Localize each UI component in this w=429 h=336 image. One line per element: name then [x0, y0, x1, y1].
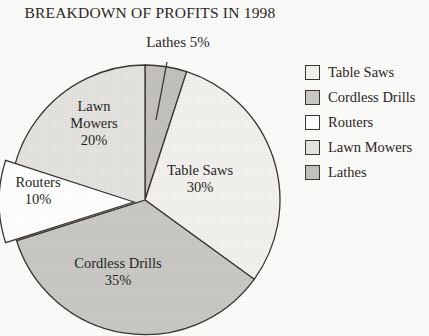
slice-label-table-saws-pct: 30% — [150, 179, 250, 196]
legend-label-lawn-mowers: Lawn Mowers — [328, 139, 412, 156]
legend-label-lathes: Lathes — [328, 164, 367, 181]
legend-label-cordless-drills: Cordless Drills — [328, 89, 415, 106]
legend: Table Saws Cordless Drills Routers Lawn … — [305, 60, 429, 185]
legend-swatch-table-saws — [305, 65, 320, 80]
legend-swatch-cordless-drills — [305, 90, 320, 105]
legend-item-lathes: Lathes — [305, 160, 429, 185]
legend-swatch-lawn-mowers — [305, 140, 320, 155]
legend-item-routers: Routers — [305, 110, 429, 135]
slice-label-routers-pct: 10% — [2, 191, 74, 208]
legend-swatch-lathes — [305, 165, 320, 180]
slice-label-routers-name: Routers — [15, 174, 60, 190]
legend-item-cordless-drills: Cordless Drills — [305, 85, 429, 110]
slice-label-lawn-mowers: Lawn Mowers 20% — [48, 98, 140, 149]
slice-label-lawn-mowers-name-line1: Lawn — [77, 98, 110, 114]
slice-label-table-saws-name: Table Saws — [167, 162, 233, 178]
pie-graphic: Table Saws 30% Cordless Drills 35% Route… — [0, 0, 300, 336]
slice-label-routers: Routers 10% — [2, 174, 74, 208]
legend-label-table-saws: Table Saws — [328, 64, 394, 81]
slice-label-cordless-drills-name: Cordless Drills — [74, 255, 161, 271]
slice-label-cordless-drills-pct: 35% — [48, 272, 188, 289]
slice-label-lawn-mowers-name-line2: Mowers — [48, 115, 140, 132]
legend-item-table-saws: Table Saws — [305, 60, 429, 85]
legend-item-lawn-mowers: Lawn Mowers — [305, 135, 429, 160]
slice-label-cordless-drills: Cordless Drills 35% — [48, 255, 188, 289]
legend-label-routers: Routers — [328, 114, 373, 131]
slice-label-table-saws: Table Saws 30% — [150, 162, 250, 196]
slice-label-lawn-mowers-pct: 20% — [48, 132, 140, 149]
legend-swatch-routers — [305, 115, 320, 130]
pie-chart-figure: BREAKDOWN OF PROFITS IN 1998 Lathes 5% — [0, 0, 429, 336]
